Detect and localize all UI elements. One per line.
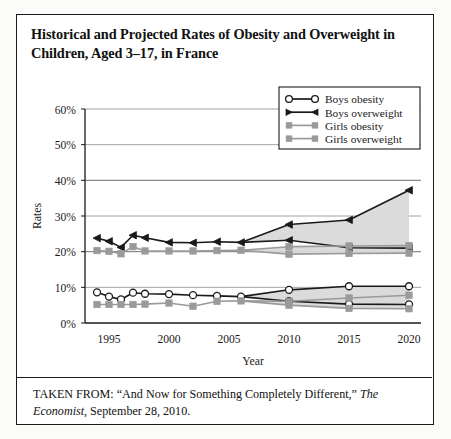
data-point xyxy=(118,301,124,307)
data-point xyxy=(142,290,149,297)
data-point xyxy=(130,301,136,307)
data-point xyxy=(189,239,196,246)
legend-marker-3 xyxy=(312,135,318,141)
legend-marker-2 xyxy=(312,122,318,128)
data-point xyxy=(237,239,244,246)
x-tick-label-2015: 2015 xyxy=(337,333,360,346)
data-point xyxy=(406,242,412,248)
data-point xyxy=(166,291,173,298)
data-point xyxy=(286,302,292,308)
y-tick-label-20: 20% xyxy=(55,246,77,259)
x-tick-label-2000: 2000 xyxy=(157,333,180,346)
data-point xyxy=(93,234,100,241)
data-point xyxy=(142,248,148,254)
data-point xyxy=(346,305,352,311)
data-point xyxy=(190,292,197,299)
data-point xyxy=(346,250,352,256)
data-point xyxy=(406,250,412,256)
data-point xyxy=(190,303,196,309)
data-point xyxy=(166,300,172,306)
data-point xyxy=(286,286,293,293)
legend-marker-3 xyxy=(286,135,292,141)
legend-label-1: Boys overweight xyxy=(325,107,403,119)
data-point xyxy=(166,248,172,254)
data-point xyxy=(106,301,112,307)
data-point xyxy=(214,298,220,304)
line-chart: 0%10%20%30%40%50%60%Rates199520002005201… xyxy=(17,77,431,374)
y-tick-label-50: 50% xyxy=(55,139,77,152)
data-point xyxy=(346,283,353,290)
legend-marker-0 xyxy=(312,96,319,103)
y-tick-label-30: 30% xyxy=(55,211,77,224)
data-point xyxy=(106,248,112,254)
chart-area: 0%10%20%30%40%50%60%Rates199520002005201… xyxy=(17,77,431,374)
legend-label-2: Girls obesity xyxy=(325,120,384,132)
data-point xyxy=(117,244,124,251)
data-point xyxy=(190,248,196,254)
caption-prefix: TAKEN FROM: “And Now for Something Compl… xyxy=(33,387,360,401)
figure-frame: Historical and Projected Rates of Obesit… xyxy=(16,14,434,425)
data-point xyxy=(213,238,220,245)
projection-band-boys-overweight xyxy=(241,190,409,248)
data-point xyxy=(94,289,101,296)
chart-legend: Boys obesityBoys overweightGirls obesity… xyxy=(279,87,420,149)
data-point xyxy=(286,251,292,257)
data-point xyxy=(106,293,113,300)
y-axis-title: Rates xyxy=(30,202,44,229)
data-point xyxy=(142,301,148,307)
x-tick-label-1995: 1995 xyxy=(97,333,120,346)
legend-marker-2 xyxy=(286,122,292,128)
data-point xyxy=(346,295,352,301)
x-tick-label-2005: 2005 xyxy=(217,333,240,346)
x-tick-label-2020: 2020 xyxy=(397,333,420,346)
data-point xyxy=(105,238,112,245)
y-tick-label-0: 0% xyxy=(61,318,77,331)
data-point xyxy=(94,301,100,307)
figure-caption: TAKEN FROM: “And Now for Something Compl… xyxy=(33,386,417,420)
data-point xyxy=(141,234,148,241)
legend-marker-0 xyxy=(286,96,293,103)
data-point xyxy=(406,292,412,298)
y-tick-label-40: 40% xyxy=(55,175,77,188)
data-point xyxy=(286,243,292,249)
data-point xyxy=(406,306,412,312)
data-point xyxy=(346,243,352,249)
data-point xyxy=(406,283,413,290)
y-tick-label-60: 60% xyxy=(55,104,77,117)
y-tick-label-10: 10% xyxy=(55,282,77,295)
data-point xyxy=(94,247,100,253)
legend-label-3: Girls overweight xyxy=(325,133,403,145)
data-point xyxy=(118,251,124,257)
data-point xyxy=(130,289,137,296)
caption-suffix: , September 28, 2010. xyxy=(84,404,190,418)
figure-page: Historical and Projected Rates of Obesit… xyxy=(0,0,451,439)
data-point xyxy=(238,298,244,304)
data-point xyxy=(214,247,220,253)
x-tick-label-2010: 2010 xyxy=(277,333,300,346)
data-point xyxy=(165,239,172,246)
data-point xyxy=(238,247,244,253)
data-point xyxy=(130,243,136,249)
x-axis-title: Year xyxy=(242,354,264,368)
legend-label-0: Boys obesity xyxy=(325,93,384,105)
caption-divider xyxy=(17,377,432,378)
figure-title: Historical and Projected Rates of Obesit… xyxy=(31,25,423,63)
